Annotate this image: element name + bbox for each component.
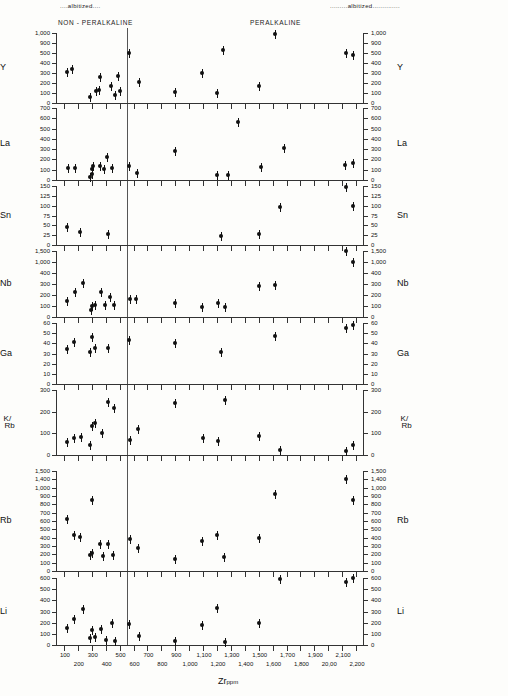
x-tick-label: 900 xyxy=(164,652,188,658)
x-tick-label: 700 xyxy=(136,652,160,658)
y-tick-label: 500 xyxy=(8,586,50,592)
data-point xyxy=(113,639,117,643)
x-tick-label: 1,800 xyxy=(289,661,313,667)
x-tick-label: 20,00 xyxy=(317,661,341,667)
y-tick-label: 0 xyxy=(8,642,50,648)
x-tick-label: 600 xyxy=(123,661,147,667)
x-tick xyxy=(175,646,176,651)
element-label-right-li: Li xyxy=(397,606,404,616)
x-tick xyxy=(161,646,162,651)
x-tick-label: 2,200 xyxy=(345,661,369,667)
data-point xyxy=(81,607,85,611)
y-tick-label: 200 xyxy=(371,620,413,626)
data-point xyxy=(93,635,97,639)
data-point xyxy=(215,606,219,610)
x-tick xyxy=(328,646,329,651)
data-point xyxy=(104,638,108,642)
y-tick xyxy=(363,612,368,613)
y-tick-label: 200 xyxy=(8,620,50,626)
figure-root: ....albitized.............albitized.....… xyxy=(0,0,508,696)
x-tick-label: 500 xyxy=(109,652,133,658)
y-tick-label: 300 xyxy=(8,609,50,615)
x-tick-label: 1,600 xyxy=(262,661,286,667)
data-point xyxy=(173,639,177,643)
x-tick-label: 200 xyxy=(67,661,91,667)
y-tick xyxy=(52,623,57,624)
data-point xyxy=(351,576,355,580)
x-tick xyxy=(259,646,260,651)
y-tick-label: 600 xyxy=(371,575,413,581)
x-tick xyxy=(92,646,93,651)
data-point xyxy=(223,640,227,644)
y-tick xyxy=(52,612,57,613)
x-tick-label: 100 xyxy=(53,652,77,658)
y-tick xyxy=(52,589,57,590)
data-point xyxy=(72,617,76,621)
x-tick-label: 400 xyxy=(95,661,119,667)
x-tick xyxy=(217,646,218,651)
x-tick-label: 300 xyxy=(81,652,105,658)
x-tick xyxy=(342,646,343,651)
x-tick-label: 1,500 xyxy=(248,652,272,658)
y-tick xyxy=(363,634,368,635)
data-point xyxy=(137,634,141,638)
data-point xyxy=(88,636,92,640)
x-tick xyxy=(231,646,232,651)
panel-baseline xyxy=(57,645,363,646)
x-tick xyxy=(189,646,190,651)
y-tick-label: 300 xyxy=(371,609,413,615)
x-tick-label: 1,400 xyxy=(234,661,258,667)
y-tick-label: 400 xyxy=(8,597,50,603)
x-tick xyxy=(147,646,148,651)
x-tick xyxy=(134,646,135,651)
x-axis-title: Zrppm xyxy=(218,676,238,686)
data-point xyxy=(110,621,114,625)
data-point xyxy=(99,627,103,631)
y-tick xyxy=(52,600,57,601)
y-tick-label: 100 xyxy=(8,631,50,637)
y-tick-label: 0 xyxy=(371,642,413,648)
x-tick-label: 1,900 xyxy=(303,652,327,658)
y-tick xyxy=(363,600,368,601)
y-tick xyxy=(363,578,368,579)
x-tick xyxy=(356,646,357,651)
x-tick xyxy=(273,646,274,651)
x-tick-label: 1,300 xyxy=(220,652,244,658)
x-tick xyxy=(300,646,301,651)
data-point xyxy=(257,621,261,625)
y-tick-label: 400 xyxy=(371,597,413,603)
x-tick xyxy=(120,646,121,651)
y-tick xyxy=(363,645,368,646)
x-tick-label: 1,700 xyxy=(276,652,300,658)
x-tick xyxy=(287,646,288,651)
y-tick xyxy=(52,578,57,579)
x-tick xyxy=(314,646,315,651)
panel-li: 00100100200200300300400400500500600600Li… xyxy=(0,0,508,696)
data-point xyxy=(278,577,282,581)
y-tick xyxy=(52,634,57,635)
y-tick xyxy=(363,623,368,624)
y-tick xyxy=(52,645,57,646)
x-tick-label: 2,100 xyxy=(331,652,355,658)
x-tick-label: 1,200 xyxy=(206,661,230,667)
data-point xyxy=(344,580,348,584)
x-tick xyxy=(203,646,204,651)
data-point xyxy=(200,623,204,627)
y-tick-label: 100 xyxy=(371,631,413,637)
data-point xyxy=(65,626,69,630)
x-tick xyxy=(245,646,246,651)
x-tick-label: 800 xyxy=(150,661,174,667)
y-tick xyxy=(363,589,368,590)
x-tick-label: 1,100 xyxy=(192,652,216,658)
y-tick-label: 600 xyxy=(8,575,50,581)
data-point xyxy=(127,622,131,626)
x-tick xyxy=(106,646,107,651)
data-point xyxy=(90,628,94,632)
y-tick-label: 500 xyxy=(371,586,413,592)
x-tick xyxy=(78,646,79,651)
x-tick-label: 1,000 xyxy=(178,661,202,667)
x-tick xyxy=(64,646,65,651)
element-label-left-li: Li xyxy=(0,606,7,616)
